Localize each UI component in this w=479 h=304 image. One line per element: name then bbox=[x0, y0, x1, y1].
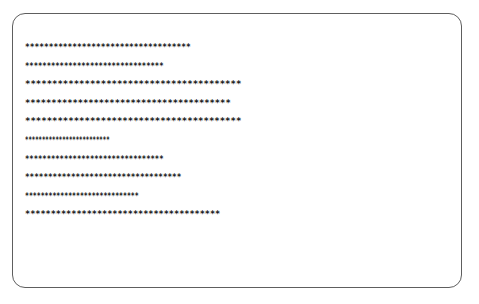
asterisk-line: ***************************** bbox=[25, 187, 182, 206]
asterisk-line: ******************************** bbox=[25, 150, 198, 169]
asterisk-line: *********************************** bbox=[25, 38, 214, 57]
asterisk-line: ******************************** bbox=[25, 57, 198, 76]
asterisk-line: **************************************** bbox=[25, 75, 241, 94]
asterisk-line: ********************************** bbox=[25, 168, 209, 187]
asterisk-line: **************************************** bbox=[25, 112, 241, 131]
asterisk-line: ************************************** bbox=[25, 205, 231, 224]
asterisk-line: ************************* bbox=[25, 131, 160, 150]
asterisk-line: *************************************** bbox=[25, 94, 236, 113]
asterisk-lines: *********************************** ****… bbox=[25, 38, 241, 224]
